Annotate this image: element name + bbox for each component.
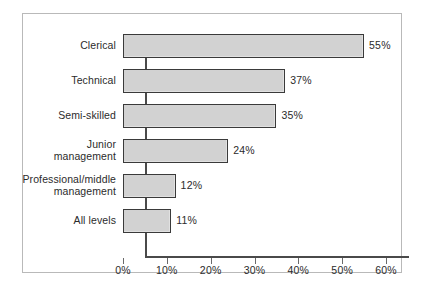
bar (123, 104, 276, 128)
x-tick-label: 30% (244, 264, 266, 276)
x-tick-label: 60% (375, 264, 397, 276)
value-label: 35% (281, 109, 303, 121)
bar (123, 69, 285, 93)
value-label: 37% (290, 74, 312, 86)
bar (123, 34, 364, 58)
x-tick-label: 50% (331, 264, 353, 276)
category-label: Junior management (54, 138, 116, 162)
chart-frame: 0%10%20%30%40%50%60% Clerical55%Technica… (22, 13, 402, 273)
category-label: Clerical (80, 39, 116, 51)
value-label: 11% (176, 214, 197, 226)
value-label: 24% (233, 144, 255, 156)
bar-chart: 0%10%20%30%40%50%60% Clerical55%Technica… (0, 0, 422, 292)
bar (123, 209, 171, 233)
x-axis-line (145, 256, 409, 258)
bar (123, 174, 176, 198)
category-label: Semi-skilled (58, 109, 116, 121)
category-label: All levels (74, 214, 116, 226)
value-label: 12% (181, 179, 203, 191)
x-tick-label: 40% (288, 264, 310, 276)
x-tick-label: 20% (200, 264, 222, 276)
category-label: Technical (71, 74, 116, 86)
category-label: Professional/middle management (22, 173, 116, 197)
value-label: 55% (369, 39, 391, 51)
x-tick-label: 0% (115, 264, 131, 276)
x-tick-label: 10% (156, 264, 178, 276)
bar (123, 139, 228, 163)
